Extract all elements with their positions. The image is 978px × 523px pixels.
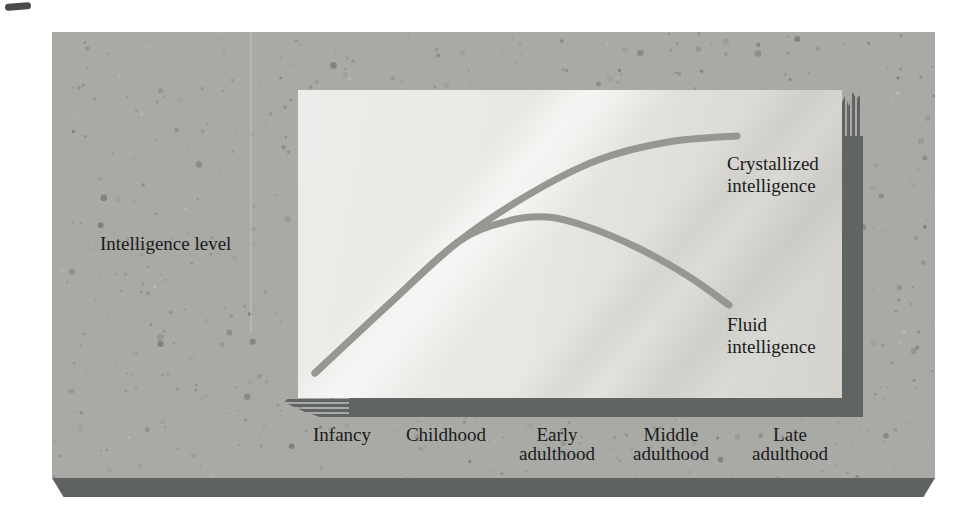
crystallized-label-line1: Crystallized <box>727 153 819 175</box>
fluid-label-line2: intelligence <box>727 336 816 358</box>
x-label-line: Childhood <box>406 425 486 444</box>
panel-shadow-right <box>842 136 863 406</box>
scan-artifact <box>5 2 31 11</box>
panel-shadow-hatch-top <box>842 92 861 140</box>
x-label-line: adulthood <box>519 444 595 463</box>
x-label-line: adulthood <box>633 444 709 463</box>
x-label-line: Early <box>519 425 595 444</box>
figure-intelligence-lifespan: Intelligence level Crystallized intellig… <box>0 0 978 523</box>
fluid-label-line1: Fluid <box>727 314 816 336</box>
crystallized-intelligence-label: Crystallized intelligence <box>727 153 819 197</box>
x-axis-label-childhood: Childhood <box>406 425 486 444</box>
x-axis-label-early-adulthood: Early adulthood <box>519 425 595 463</box>
y-axis-label: Intelligence level <box>100 233 231 255</box>
crystallized-intelligence-curve <box>315 136 737 373</box>
panel-shadow-bottom <box>349 398 863 417</box>
x-axis-label-infancy: Infancy <box>313 425 371 444</box>
x-axis-label-middle-adulthood: Middle adulthood <box>633 425 709 463</box>
crystallized-label-line2: intelligence <box>727 175 819 197</box>
x-axis-label-late-adulthood: Late adulthood <box>752 425 828 463</box>
slab-seam-line <box>250 32 252 332</box>
x-label-line: adulthood <box>752 444 828 463</box>
x-label-line: Infancy <box>313 425 371 444</box>
slab-bottom-edge <box>52 478 935 497</box>
x-label-line: Late <box>752 425 828 444</box>
x-label-line: Middle <box>633 425 709 444</box>
fluid-intelligence-curve <box>315 217 729 373</box>
fluid-intelligence-label: Fluid intelligence <box>727 314 816 358</box>
